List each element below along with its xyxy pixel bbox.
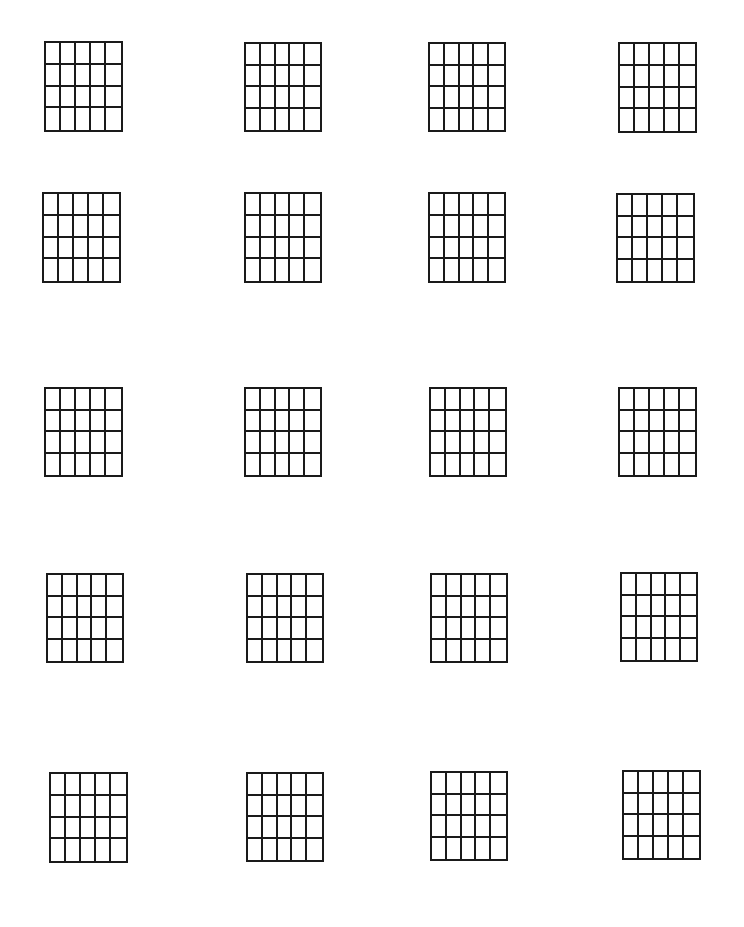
grid-cell <box>292 774 307 796</box>
grid-cell <box>618 238 633 260</box>
chord-grid <box>246 573 324 663</box>
grid-cell <box>635 44 650 66</box>
grid-cell <box>462 816 477 838</box>
grid-cell <box>307 618 322 640</box>
grid-cell <box>263 796 278 818</box>
grid-cell <box>81 796 96 818</box>
grid-cell <box>248 575 263 597</box>
grid-cell <box>432 773 447 795</box>
grid-cell <box>290 389 305 411</box>
grid-cell <box>652 574 667 596</box>
grid-cell <box>489 66 504 88</box>
grid-cell <box>92 618 107 640</box>
grid-cell <box>74 259 89 281</box>
grid-cell <box>246 454 261 476</box>
grid-cell <box>66 796 81 818</box>
grid-cell <box>678 195 693 217</box>
grid-cell <box>475 411 490 433</box>
grid-cell <box>648 238 663 260</box>
grid-cell <box>681 639 696 661</box>
grid-cell <box>278 618 293 640</box>
grid-cell <box>261 259 276 281</box>
grid-cell <box>107 575 122 597</box>
grid-cell <box>663 238 678 260</box>
grid-cell <box>680 109 695 131</box>
grid-cell <box>639 815 654 837</box>
grid-cell <box>46 432 61 454</box>
grid-cell <box>620 432 635 454</box>
grid-cell <box>48 640 63 662</box>
grid-cell <box>430 66 445 88</box>
grid-cell <box>107 597 122 619</box>
grid-cell <box>61 411 76 433</box>
grid-cell <box>246 194 261 216</box>
grid-cell <box>460 194 475 216</box>
grid-cell <box>46 87 61 109</box>
grid-cell <box>476 773 491 795</box>
grid-cell <box>292 640 307 662</box>
grid-cell <box>263 575 278 597</box>
grid-cell <box>246 432 261 454</box>
grid-cell <box>490 432 505 454</box>
grid-cell <box>652 639 667 661</box>
grid-cell <box>261 66 276 88</box>
grid-cell <box>622 596 637 618</box>
grid-cell <box>91 65 106 87</box>
grid-cell <box>305 216 320 238</box>
grid-cell <box>491 618 506 640</box>
grid-cell <box>76 432 91 454</box>
grid-cell <box>446 454 461 476</box>
grid-cell <box>290 194 305 216</box>
grid-cell <box>46 454 61 476</box>
grid-cell <box>51 818 66 840</box>
grid-cell <box>59 238 74 260</box>
grid-cell <box>447 575 462 597</box>
grid-cell <box>650 389 665 411</box>
grid-cell <box>89 194 104 216</box>
grid-cell <box>639 772 654 794</box>
chord-grid <box>430 771 508 861</box>
grid-cell <box>246 389 261 411</box>
chord-grid <box>430 573 508 663</box>
grid-cell <box>491 575 506 597</box>
grid-cell <box>51 796 66 818</box>
grid-cell <box>491 816 506 838</box>
grid-cell <box>106 432 121 454</box>
grid-cell <box>445 109 460 131</box>
grid-cell <box>476 795 491 817</box>
grid-cell <box>290 44 305 66</box>
grid-cell <box>263 839 278 861</box>
grid-cell <box>489 216 504 238</box>
grid-cell <box>445 194 460 216</box>
grid-cell <box>476 816 491 838</box>
grid-cell <box>432 816 447 838</box>
grid-cell <box>430 216 445 238</box>
grid-cell <box>276 259 291 281</box>
chord-grid <box>244 387 322 477</box>
grid-cell <box>462 640 477 662</box>
grid-cell <box>447 640 462 662</box>
grid-cell <box>489 194 504 216</box>
grid-cell <box>292 796 307 818</box>
grid-cell <box>61 108 76 130</box>
grid-cell <box>474 109 489 131</box>
grid-cell <box>620 109 635 131</box>
grid-cell <box>91 87 106 109</box>
chord-grid <box>44 387 123 477</box>
grid-cell <box>635 389 650 411</box>
grid-cell <box>59 259 74 281</box>
grid-cell <box>89 238 104 260</box>
grid-cell <box>680 411 695 433</box>
grid-cell <box>307 774 322 796</box>
grid-cell <box>276 109 291 131</box>
grid-cell <box>263 618 278 640</box>
grid-cell <box>63 597 78 619</box>
grid-cell <box>292 839 307 861</box>
grid-cell <box>76 87 91 109</box>
grid-cell <box>261 44 276 66</box>
grid-cell <box>666 574 681 596</box>
grid-cell <box>89 216 104 238</box>
grid-cell <box>680 66 695 88</box>
grid-cell <box>290 259 305 281</box>
grid-cell <box>91 454 106 476</box>
